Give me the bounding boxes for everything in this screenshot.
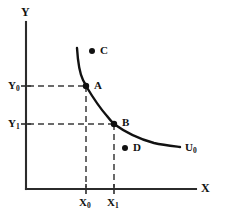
x-tick-1-subscript: 1 [115,201,119,210]
y-tick-1-base: Y [8,117,16,129]
y-tick-1-label: Y1 [8,118,20,129]
point-marker-c [89,48,95,54]
curve-label-subscript: 0 [193,146,197,155]
point-marker-b [111,121,117,127]
indifference-curve-u0 [77,48,180,147]
x-tick-0-label: X0 [79,197,91,208]
point-marker-d [122,145,128,151]
x-tick-0-subscript: 0 [87,201,91,210]
point-label-a: A [94,80,102,91]
x-tick-1-label: X1 [107,197,119,208]
curve-label-u0: U0 [185,142,197,153]
point-marker-a [83,83,89,89]
indifference-curve-figure: Y X Y0 Y1 X0 X1 U0 A B C D [0,0,227,223]
point-label-b: B [122,117,129,128]
x-axis-label: X [201,182,210,194]
point-label-d: D [133,142,141,153]
point-label-c: C [100,45,108,56]
y-axis-label: Y [21,6,30,18]
y-tick-0-label: Y0 [8,80,20,91]
y-tick-1-subscript: 1 [16,122,20,131]
figure-canvas [0,0,227,223]
y-tick-0-subscript: 0 [16,84,20,93]
x-tick-0-base: X [79,196,87,208]
y-tick-0-base: Y [8,79,16,91]
curve-label-base: U [185,141,193,153]
x-tick-1-base: X [107,196,115,208]
